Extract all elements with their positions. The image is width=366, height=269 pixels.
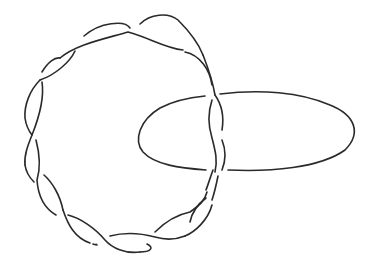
band-strand-segment bbox=[44, 175, 63, 210]
twisted-band bbox=[25, 15, 225, 252]
band-strand-segment bbox=[25, 80, 40, 135]
knot-diagram bbox=[0, 0, 366, 269]
band-strand-segment bbox=[110, 233, 185, 239]
band-strand-segment bbox=[93, 244, 97, 245]
band-strand-segment bbox=[222, 140, 225, 170]
band-strand-segment bbox=[63, 210, 90, 243]
band-strand-segment bbox=[215, 95, 223, 130]
linking-ellipse-group bbox=[138, 92, 354, 171]
linking-ellipse bbox=[220, 92, 354, 171]
band-strand-segment bbox=[40, 51, 75, 80]
linking-ellipse bbox=[138, 96, 206, 170]
band-strand-segment bbox=[185, 205, 212, 236]
band-strand-segment bbox=[212, 176, 218, 200]
band-strand-segment bbox=[60, 32, 183, 58]
band-strand-segment bbox=[209, 100, 216, 172]
band-strand-segment bbox=[140, 244, 151, 252]
band-strand-segment bbox=[140, 15, 203, 55]
band-strand-segment bbox=[206, 170, 213, 190]
knot-diagram-svg bbox=[0, 0, 366, 269]
band-strand-segment bbox=[25, 82, 43, 165]
band-strand-segment bbox=[25, 165, 34, 182]
